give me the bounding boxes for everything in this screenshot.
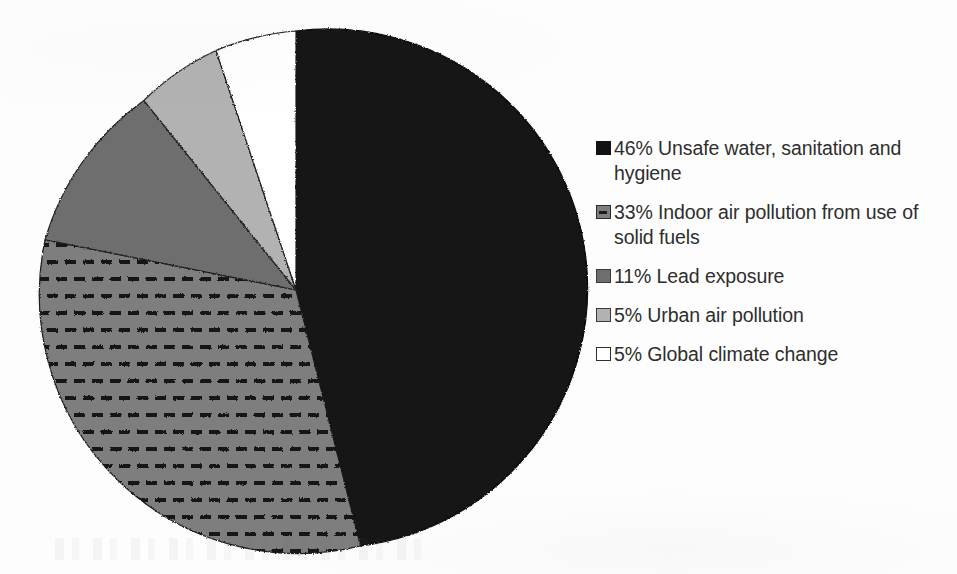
legend-swatch-icon-urban-air-pollution [596, 308, 611, 322]
legend-swatch-icon-indoor-air-pollution [596, 205, 611, 219]
legend-item-unsafe-water[interactable]: 46% Unsafe water, sanitation and hygiene [596, 136, 946, 186]
legend-item-indoor-air-pollution[interactable]: 33% Indoor air pollution from use of sol… [596, 200, 946, 250]
legend-swatch-icon-unsafe-water [596, 141, 611, 155]
legend-swatch-icon-global-climate-change [596, 347, 611, 361]
legend-label-global-climate-change: 5% Global climate change [614, 342, 838, 367]
chart-legend: 46% Unsafe water, sanitation and hygiene… [596, 136, 946, 381]
pie-chart-figure: 46% Unsafe water, sanitation and hygiene… [0, 0, 957, 574]
legend-swatch-icon-lead-exposure [596, 269, 611, 283]
legend-item-global-climate-change[interactable]: 5% Global climate change [596, 342, 946, 367]
legend-label-unsafe-water: 46% Unsafe water, sanitation and hygiene [614, 136, 934, 186]
legend-label-lead-exposure: 11% Lead exposure [614, 264, 784, 289]
legend-label-urban-air-pollution: 5% Urban air pollution [614, 303, 804, 328]
legend-item-urban-air-pollution[interactable]: 5% Urban air pollution [596, 303, 946, 328]
legend-item-lead-exposure[interactable]: 11% Lead exposure [596, 264, 946, 289]
legend-label-indoor-air-pollution: 33% Indoor air pollution from use of sol… [614, 200, 934, 250]
